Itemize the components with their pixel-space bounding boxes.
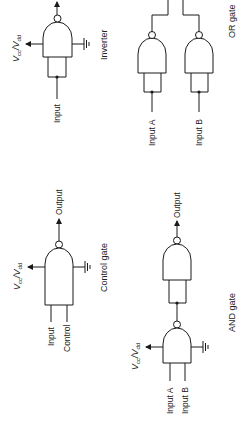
or-input-b-label: Input B — [194, 119, 204, 146]
inverter-output-bubble — [54, 15, 61, 22]
inverter-nand-body — [43, 22, 72, 57]
or-nand-a-body — [138, 38, 166, 73]
or-nand-a-bubble — [149, 32, 156, 39]
and-gate-circuit: Output Input A Input B Vcc/Vdd AND gate — [130, 192, 237, 414]
nand-logic-diagram: Input Vcc/Vdd Inverter Input A Input B O… — [0, 0, 246, 422]
control-gate-circuit: Output Input Control Vcc/Vdd Control gat… — [12, 189, 109, 352]
and-gate-caption: AND gate — [227, 293, 237, 332]
or-gate-circuit: Input A Input B OR gate — [138, 0, 237, 146]
or-input-a-label: Input A — [147, 119, 157, 146]
control-output-label: Output — [54, 189, 64, 215]
inverter-tied-inputs — [48, 57, 66, 77]
control-control-label: Control — [62, 324, 72, 352]
control-output-bubble — [56, 241, 63, 248]
inverter-supply-label: Vcc/Vdd — [11, 35, 22, 62]
or-nand-b-body — [185, 38, 213, 73]
ground-icon — [73, 261, 90, 273]
and-stage2-bubble — [174, 237, 181, 244]
and-stage1-bubble — [174, 321, 181, 328]
or-nand-b-tied-inputs — [191, 73, 208, 92]
or-gate-caption: OR gate — [227, 4, 237, 38]
or-nand-b-bubble — [196, 32, 203, 39]
ground-icon — [191, 341, 208, 353]
inverter-circuit: Input Vcc/Vdd Inverter — [11, 2, 109, 123]
control-input-label: Input — [46, 326, 56, 346]
control-supply-label: Vcc/Vdd — [12, 263, 23, 290]
or-nand-a-tied-inputs — [144, 73, 161, 92]
control-gate-caption: Control gate — [99, 243, 109, 292]
and-input-b-label: Input B — [180, 387, 190, 414]
and-stage1-nand-body — [163, 328, 191, 363]
and-stage2-nand-body — [163, 244, 191, 280]
ground-icon — [72, 38, 89, 50]
or-nand-a-output-wire — [152, 0, 168, 32]
and-stage2-tied-inputs — [169, 280, 186, 303]
inverter-input-label: Input — [52, 103, 62, 123]
and-supply-label: Vcc/Vdd — [130, 343, 141, 370]
or-nand-b-output-wire — [183, 0, 199, 32]
control-nand-body — [45, 248, 73, 305]
and-output-label: Output — [172, 192, 182, 218]
and-input-a-label: Input A — [165, 387, 175, 414]
inverter-caption: Inverter — [99, 29, 109, 60]
